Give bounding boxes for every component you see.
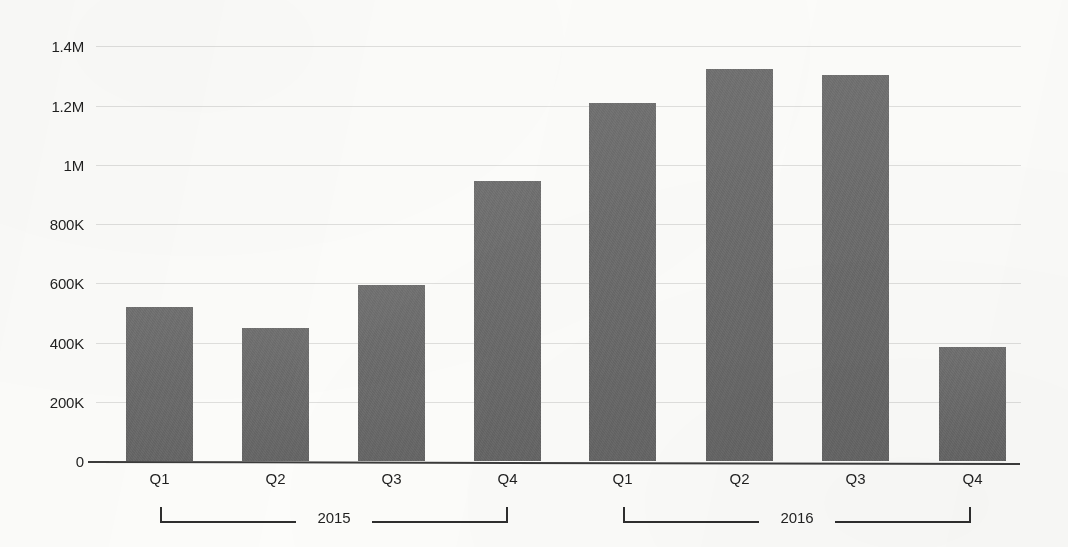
bracket-line-right	[372, 521, 508, 523]
bar-2016-q3[interactable]	[822, 75, 889, 461]
x-axis-tick-label-2016-q4: Q4	[933, 470, 1013, 487]
y-axis-tick-label: 1.2M	[0, 97, 84, 114]
y-axis-tick-label: 600K	[0, 275, 84, 292]
bar-2015-q1[interactable]	[126, 307, 193, 461]
plot-area: 1.4M1.2M1M800K600K400K200K0 Q1Q2Q3Q4Q1Q2…	[0, 0, 1068, 547]
bar-2015-q2[interactable]	[242, 328, 309, 461]
bracket-line-left	[160, 521, 296, 523]
year-bracket-2015: 2015	[160, 503, 508, 533]
x-axis-tick-label-2015-q1: Q1	[120, 470, 200, 487]
year-label: 2016	[769, 509, 825, 526]
bracket-tick-left	[623, 507, 625, 523]
y-axis-tick-label: 1M	[0, 156, 84, 173]
bar-chart: 1.4M1.2M1M800K600K400K200K0 Q1Q2Q3Q4Q1Q2…	[0, 0, 1068, 547]
y-axis-tick-label: 800K	[0, 216, 84, 233]
x-axis-tick-label-2015-q4: Q4	[468, 470, 548, 487]
bar-2015-q3[interactable]	[358, 285, 425, 461]
bracket-tick-right	[969, 507, 971, 523]
x-axis-tick-label-2015-q3: Q3	[352, 470, 432, 487]
year-bracket-2016: 2016	[623, 503, 971, 533]
x-axis-tick-label-2016-q3: Q3	[816, 470, 896, 487]
bracket-line-right	[835, 521, 971, 523]
x-axis-line	[88, 461, 1020, 465]
bracket-tick-right	[506, 507, 508, 523]
bar-2016-q2[interactable]	[706, 69, 773, 461]
y-axis-tick-label: 200K	[0, 393, 84, 410]
x-axis-tick-label-2016-q2: Q2	[700, 470, 780, 487]
y-axis-tick-label: 0	[0, 453, 84, 470]
bar-2015-q4[interactable]	[474, 181, 541, 461]
bar-2016-q1[interactable]	[589, 103, 656, 461]
year-label: 2015	[306, 509, 362, 526]
y-axis-tick-label: 1.4M	[0, 38, 84, 55]
y-axis-tick-label: 400K	[0, 334, 84, 351]
bracket-line-left	[623, 521, 759, 523]
bracket-tick-left	[160, 507, 162, 523]
x-axis-tick-label-2016-q1: Q1	[583, 470, 663, 487]
gridline	[96, 46, 1021, 47]
x-axis-tick-label-2015-q2: Q2	[236, 470, 316, 487]
bar-2016-q4[interactable]	[939, 347, 1006, 461]
